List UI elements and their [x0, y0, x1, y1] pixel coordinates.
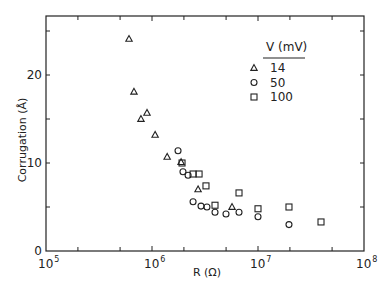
circle-marker: [204, 204, 210, 210]
x-tick-label: 108: [356, 255, 377, 271]
triangle-marker: [195, 186, 201, 192]
triangle-marker: [144, 109, 150, 115]
circle-marker: [175, 148, 181, 154]
series-14: [126, 36, 235, 210]
legend-entry-label: 100: [270, 90, 293, 104]
square-marker: [318, 219, 324, 225]
plot-border: [46, 16, 364, 251]
circle-marker: [286, 222, 292, 228]
y-tick-label: 10: [27, 156, 42, 170]
x-axis-title: R (Ω): [193, 266, 221, 279]
triangle-marker: [152, 131, 158, 137]
y-tick-label: 20: [27, 68, 42, 82]
circle-marker: [236, 209, 242, 215]
x-tick-label: 107: [250, 255, 271, 271]
circle-marker: [251, 80, 257, 86]
circle-marker: [223, 211, 229, 217]
triangle-marker: [131, 88, 137, 94]
triangle-marker: [164, 153, 170, 159]
circle-marker: [198, 203, 204, 209]
scatter-chart: 105106107108 01020 R (Ω) Corrugation (Å)…: [0, 0, 386, 287]
legend-entry-label: 50: [270, 76, 285, 90]
triangle-marker: [138, 116, 144, 122]
square-marker: [212, 202, 218, 208]
square-marker: [236, 190, 242, 196]
triangle-marker: [126, 36, 132, 42]
data-points: [126, 36, 324, 228]
x-tick-label: 106: [144, 255, 165, 271]
square-marker: [196, 171, 202, 177]
square-marker: [286, 204, 292, 210]
legend-entry: 50: [251, 76, 285, 90]
circle-marker: [212, 209, 218, 215]
circle-marker: [190, 199, 196, 205]
legend-entry: 14: [251, 61, 285, 75]
legend: V (mV) 1450100: [251, 40, 307, 104]
y-axis-ticks: 01020: [27, 31, 364, 258]
x-axis-ticks: 105106107108: [38, 16, 377, 271]
circle-marker: [255, 214, 261, 220]
legend-entry: 100: [251, 90, 293, 104]
legend-entry-label: 14: [270, 61, 285, 75]
y-tick-label: 0: [34, 244, 42, 258]
plot-frame: [46, 16, 364, 251]
y-axis-title: Corrugation (Å): [16, 98, 29, 183]
series-100: [179, 160, 324, 225]
triangle-marker: [251, 65, 257, 71]
square-marker: [255, 206, 261, 212]
square-marker: [203, 183, 209, 189]
square-marker: [251, 94, 257, 100]
series-50: [175, 148, 292, 228]
legend-entries: 1450100: [251, 61, 293, 104]
legend-title: V (mV): [266, 40, 307, 54]
triangle-marker: [229, 204, 235, 210]
